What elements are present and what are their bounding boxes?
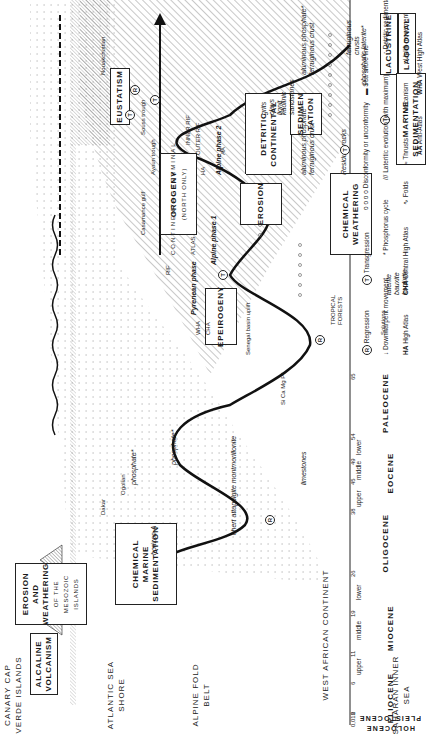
legend-aa: AA Anti-Atlas (416, 116, 423, 155)
box-epeirogeny: EPEIROGENY (205, 288, 237, 345)
label-si-ca-mg: Si Ca Mg P* (280, 372, 287, 405)
label-aluminous-phosphate-1: aluminous phosphate*ferruginous crust (300, 106, 316, 175)
epoch-miocene: MIOCENE (370, 573, 410, 683)
column-header-alpine: ALPINE FOLD BELT (190, 655, 212, 735)
legend-downwarp: ↓ Downwarpent movement (382, 278, 389, 355)
label-atlas: ATLAS (190, 236, 197, 255)
eocene-upper: upper (355, 490, 362, 507)
label-dakar: Dakar (100, 499, 107, 515)
transgression-marker: T (340, 145, 350, 155)
label-ogolian: Ogolian (120, 474, 127, 495)
tick-45: 45 (350, 478, 356, 485)
spacer (245, 174, 246, 175)
legend-disconformity: o o o o Disconformity or unconformity (362, 102, 369, 210)
label-aluminous-phosphate-2: aluminous phosphate*ferruginous crust (300, 6, 316, 75)
transgression-marker: T (218, 270, 228, 280)
box-erosion: EROSION (240, 183, 282, 225)
label-cha: CHA (205, 322, 212, 335)
transgression-marker: T (150, 95, 160, 105)
label-senegal-uplift: Senegal basin uplift (245, 303, 252, 355)
epoch-eocene: EOCENE (370, 433, 410, 513)
regression-marker: R (315, 335, 325, 345)
tick-26: 26 (350, 570, 356, 577)
label-limestones: limestones (300, 452, 308, 485)
box-orogeny: OROGENY(north only) (160, 153, 197, 235)
tick-19: 19 (350, 610, 356, 617)
tick-11: 11 (350, 651, 356, 657)
tick-65: 65 (350, 373, 356, 380)
eocene-lower: lower (355, 439, 362, 455)
label-ha: HA (200, 167, 207, 175)
box-erosion-weathering: EROSIONANDWEATHERING of theMesozoicislan… (15, 563, 87, 625)
label-horizon-a: horizon A (150, 526, 158, 555)
legend-phosphorus: * Phosphorus cycle (382, 199, 389, 255)
column-header-west-africa: WEST AFRICAN CONTINENT (320, 535, 331, 735)
tick-38: 38 (350, 508, 356, 515)
label-continental-terminal: CONTINENTAL TERMINAL (170, 141, 177, 255)
regression-marker: R (130, 85, 140, 95)
label-alpine-phase-2: Alpine phase 2 (215, 126, 223, 175)
label-kaolinic: kaolinicsandstones (280, 79, 296, 115)
legend-thrusts: ≈ Thrusts (402, 138, 409, 165)
epoch-oligocene: OLIGOCENE (360, 513, 410, 573)
miocene-lower: lower (355, 584, 362, 600)
miocene-middle: middle (355, 621, 362, 640)
label-wha: WHA (195, 321, 202, 335)
tick-6: 6 (350, 682, 356, 685)
legend-ha: HA High Atlas (402, 315, 409, 355)
legend-wha: WHA West High Atlas (416, 32, 423, 95)
label-souss-trough: Souss trough (140, 100, 147, 135)
legend-regression: R Regression (362, 310, 372, 355)
regression-marker: R (265, 515, 275, 525)
label-nouakchottian: Nouakchottian (100, 37, 107, 75)
miocene-upper: upper (355, 658, 362, 675)
legend-folds: ∿ Folds (402, 181, 410, 205)
legend-sea-shore: ▬ Sea shore line (362, 45, 369, 95)
label-alpine-phase-1: Alpine phase 1 (210, 216, 218, 265)
label-phosphate-1: phosphate* (130, 450, 138, 485)
legend: R Regression T Transgression o o o o Dis… (360, 0, 429, 355)
label-tropical-forests: TROPICALFORESTS (330, 295, 344, 325)
label-pyrenean-phase: Pyrenean phase (190, 261, 198, 315)
diagram-canvas: CANARY CAP VERDE ISLANDS ATLANTIC SEA SH… (0, 0, 429, 735)
legend-cha: CHA Central High Atlas (402, 227, 409, 295)
legend-uplift: ↑ Uplift movement (402, 13, 409, 65)
box-chemical-marine-sedimentation: CHEMICALMARINESEDIMENTATION (115, 523, 177, 605)
label-rif: RIF (165, 265, 172, 275)
label-chert: chert attapulgite montmorillonite (230, 436, 238, 535)
transgression-marker: T (125, 110, 135, 120)
column-header-atlantic: ATLANTIC SEA SHORE (105, 655, 127, 735)
box-alcaline-volcanism: ALCALINE VOLCANISM (30, 633, 58, 695)
tick-2: 2 (350, 712, 356, 715)
column-header-canary: CANARY CAP VERDE ISLANDS (2, 655, 24, 735)
eocene-middle: middle (355, 461, 362, 480)
label-phosphate-2: phosphate* (170, 430, 178, 465)
label-casamance-gulf: Casamance gulf (140, 192, 147, 235)
label-outer-rif: OUTER RIF (195, 123, 202, 155)
legend-volcanism: ⌃ Volcanism (402, 83, 410, 120)
tick-49: 49 (350, 458, 356, 465)
label-ayoun-trough: Ayoun trough (150, 139, 157, 175)
legend-transgression: T Transgression (362, 232, 372, 285)
epoch-holocene: HOLOCENE (370, 723, 410, 733)
legend-detritic: ∴ Detritic sedimentation (382, 0, 390, 55)
legend-lateritic: /// Lateritic evolution (with maximum) (382, 75, 389, 181)
tick-54: 54 (350, 433, 356, 440)
epoch-pliocene: PLIOCENE (370, 683, 410, 713)
epoch-paleocene: PALEOCENE (360, 373, 410, 433)
label-inner-rif: INNER RIF (185, 115, 192, 145)
